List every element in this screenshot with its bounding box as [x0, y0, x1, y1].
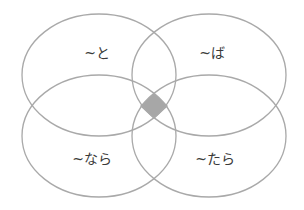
label-nara: ~なら [72, 151, 112, 167]
label-to: ~と [84, 45, 110, 61]
label-ba: ~ば [199, 45, 225, 61]
center-overlap-region [140, 93, 168, 119]
label-tara: ~たら [195, 151, 235, 167]
venn-diagram: ~と ~ば ~なら ~たら [0, 0, 304, 210]
